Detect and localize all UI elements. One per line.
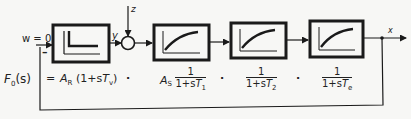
first-order-lag-icon [319,27,355,50]
plant2-fraction: 1 1+sT2 [246,66,277,94]
pd-step-response-icon [64,31,100,54]
plant1-den-text: 1+s [175,78,195,89]
first-order-lag-icon [163,31,200,53]
plant-1-block [154,25,209,60]
output-label: x [387,26,393,35]
lhs-argument: (s) [15,72,31,86]
plant-gain-subscript: S [168,80,172,88]
controller-transfer-term: AR (1+sTv) [60,72,117,87]
controller-block [53,25,109,62]
plant3-time-constant-subscript: e [348,84,352,92]
multiply-dot-2: · [220,72,224,85]
controller-term-close: ) [113,72,117,85]
equals-sign: = [46,72,55,85]
block-diagram: w = 0 – y z [0,0,411,119]
plant1-denominator: 1+sT1 [175,78,206,94]
disturbance-label: z [130,4,136,14]
plant3-den-text: 1+s [322,78,342,89]
plant2-den-text: 1+s [246,78,266,89]
first-order-lag-icon [240,29,277,51]
multiply-dot-3: · [296,72,300,85]
plant-gain-symbol: A [160,74,168,87]
summing-junction [122,37,135,50]
plant3-denominator: 1+sTe [322,78,352,94]
plant-3-block [310,21,363,57]
plant1-transfer-term: AS 1 1+sT1 [160,66,206,94]
plant2-numerator: 1 [246,66,277,78]
multiply-dot-1: · [126,72,130,85]
controller-output-label: y [111,30,119,41]
controller-gain-subscript: R [68,79,73,87]
plant2-denominator: 1+sT2 [246,78,277,94]
controller-time-constant: T [102,72,109,85]
plant3-transfer-term: 1 1+sTe [322,66,352,94]
feedback-minus-sign: – [42,46,48,59]
controller-gain-symbol: A [60,72,68,85]
plant2-transfer-term: 1 1+sT2 [246,66,277,94]
transfer-function-lhs: F0(s) [4,72,31,88]
plant1-numerator: 1 [175,66,206,78]
plant-2-block [231,23,286,58]
controller-term-open: (1+s [76,72,102,85]
plant1-time-constant-subscript: 1 [202,84,206,92]
plant3-fraction: 1 1+sTe [322,66,352,94]
plant3-numerator: 1 [322,66,352,78]
setpoint-label: w = 0 [22,33,51,44]
plant1-fraction: 1 1+sT1 [175,66,206,94]
plant2-time-constant-subscript: 2 [272,84,276,92]
lhs-symbol: F [4,72,11,86]
